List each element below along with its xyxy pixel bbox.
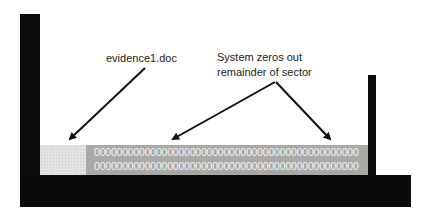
arrows-layer — [0, 0, 429, 217]
arrow-to-file-icon — [70, 68, 145, 139]
arrow-to-zeros-left-icon — [173, 82, 275, 139]
arrow-to-zeros-right-icon — [276, 82, 330, 139]
